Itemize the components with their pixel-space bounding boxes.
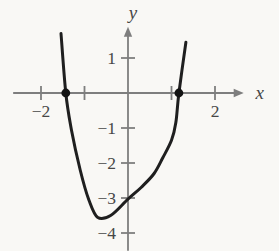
y-tick-label: −2 — [97, 153, 116, 173]
intercept-point — [61, 89, 70, 98]
x-tick-label: 2 — [211, 101, 220, 121]
y-tick-label: −1 — [97, 118, 116, 138]
intercept-point — [174, 89, 183, 98]
x-axis-arrowhead-icon — [234, 89, 244, 97]
function-graph-figure: −221−1−2−3−4xy — [0, 0, 279, 251]
y-tick-label: 1 — [107, 48, 116, 68]
y-axis-arrowhead-icon — [124, 27, 132, 37]
y-tick-label: −3 — [97, 188, 116, 208]
curve-plot-canvas: −221−1−2−3−4xy — [0, 0, 279, 251]
y-axis-label: y — [127, 2, 138, 23]
x-tick-label: −2 — [32, 101, 51, 121]
y-tick-label: −4 — [97, 223, 116, 243]
function-curve — [61, 34, 186, 219]
x-axis-label: x — [254, 82, 264, 103]
